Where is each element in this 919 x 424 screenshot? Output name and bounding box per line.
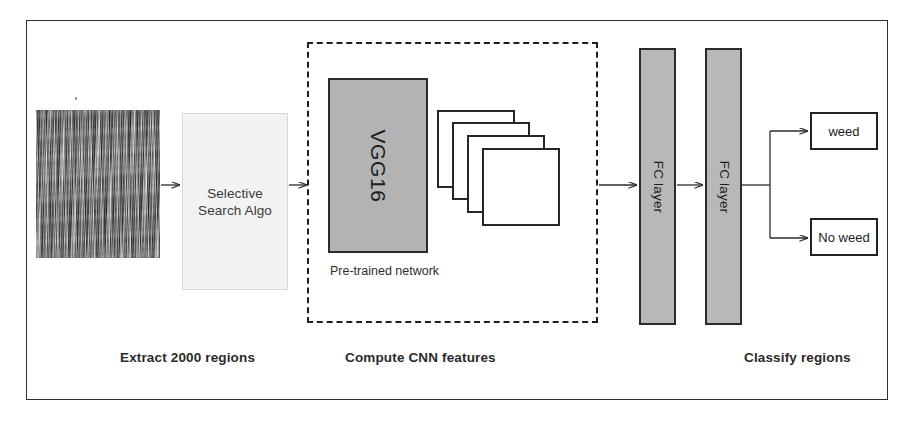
fc-layer-1: FC layer [639,48,676,325]
feature-map-4 [482,148,560,226]
selective-search-label-line1: Selective [183,185,287,202]
output-box-weed: weed [810,112,878,150]
fc-layer-2-label: FC layer [716,160,731,213]
caption-compute-cnn-features: Compute CNN features [345,350,496,365]
fc-layer-1-label: FC layer [650,160,665,213]
caption-classify-regions: Classify regions [744,350,851,365]
selective-search-label: Selective Search Algo [183,185,287,219]
input-field-image [36,110,160,258]
fc-layer-2: FC layer [705,48,742,325]
vgg16-block: VGG16 [328,78,428,253]
caption-extract-regions: Extract 2000 regions [120,350,255,365]
selective-search-box: Selective Search Algo [182,113,288,290]
selective-search-label-line2: Search Algo [183,202,287,219]
vgg16-label: VGG16 [366,129,390,202]
image-speck [75,97,77,100]
diagram-canvas: Selective Search Algo VGG16 Pre-trained … [0,0,919,424]
pre-trained-network-label: Pre-trained network [330,264,439,278]
output-box-no-weed: No weed [810,218,878,256]
